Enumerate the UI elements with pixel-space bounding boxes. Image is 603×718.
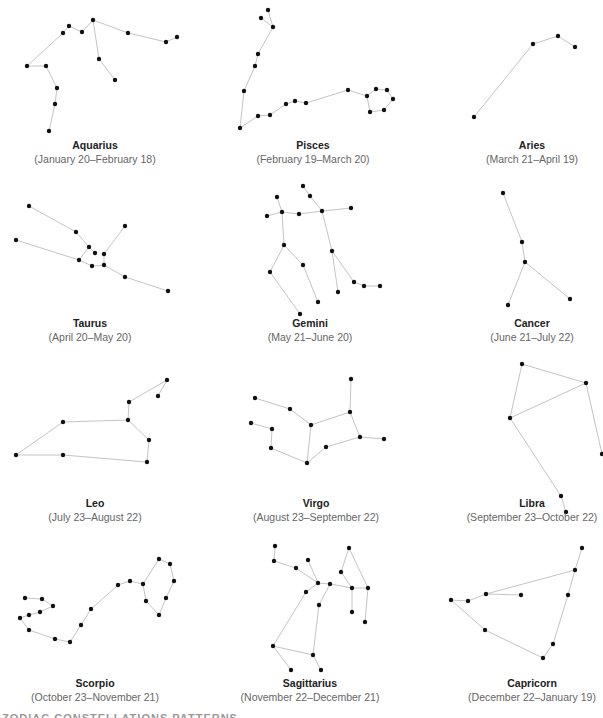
constellation-line	[474, 44, 533, 117]
constellation-line	[251, 423, 272, 429]
star-dot	[55, 86, 59, 90]
constellation-dates: (August 23–September 22)	[253, 511, 379, 523]
constellation-line	[303, 265, 318, 302]
constellation-line	[240, 116, 258, 128]
constellation-line	[522, 242, 525, 262]
constellation-line	[267, 212, 282, 216]
constellation-line	[486, 594, 521, 595]
constellation-line	[349, 548, 368, 588]
constellation-dates: (June 21–July 22)	[490, 331, 573, 343]
constellation-line	[258, 27, 273, 54]
star-dot	[301, 184, 305, 188]
star-dot	[172, 579, 176, 583]
star-dot	[253, 396, 257, 400]
constellation-line	[330, 584, 352, 588]
star-dot	[317, 603, 321, 607]
constellation-line	[299, 211, 322, 214]
star-dot	[362, 284, 366, 288]
constellation-line	[543, 644, 553, 658]
constellation-dates: (March 21–April 19)	[486, 153, 578, 165]
constellation-line	[586, 383, 602, 454]
constellation-pisces: Pisces(February 19–March 20)	[238, 8, 395, 165]
star-dot	[301, 263, 305, 267]
star-dot	[270, 427, 274, 431]
constellation-line	[274, 546, 275, 561]
star-dot	[466, 599, 470, 603]
star-dot	[316, 581, 320, 585]
constellation-line	[76, 232, 89, 247]
star-dot	[501, 191, 505, 195]
constellation-line	[313, 605, 319, 655]
star-dot	[349, 377, 353, 381]
constellation-dates: (January 20–February 18)	[34, 153, 155, 165]
star-dot	[269, 446, 273, 450]
constellation-gemini: Gemini(May 21–June 20)	[265, 184, 382, 343]
star-dot	[336, 290, 340, 294]
constellation-line	[322, 211, 332, 251]
constellation-line	[20, 618, 29, 630]
star-dot	[116, 583, 120, 587]
star-dot	[97, 57, 101, 61]
constellation-line	[274, 561, 296, 568]
star-dot	[330, 249, 334, 253]
star-dot	[25, 64, 29, 68]
star-dot	[320, 209, 324, 213]
constellation-line	[49, 104, 55, 131]
constellation-line	[284, 245, 303, 265]
star-dot	[27, 628, 31, 632]
star-dot	[90, 264, 94, 268]
constellation-aries: Aries(March 21–April 19)	[472, 34, 578, 165]
constellation-line	[29, 206, 76, 232]
constellation-line	[277, 197, 282, 212]
star-dot	[282, 243, 286, 247]
constellation-line	[271, 429, 272, 448]
constellation-name: Virgo	[303, 497, 330, 509]
constellation-dates: (September 23–October 22)	[467, 511, 598, 523]
star-dot	[271, 25, 275, 29]
star-dot	[102, 252, 106, 256]
star-dot	[280, 210, 284, 214]
constellation-line	[307, 447, 326, 463]
constellation-line	[332, 251, 338, 292]
constellation-line	[81, 609, 91, 625]
constellation-line	[82, 20, 93, 32]
constellation-line	[159, 598, 166, 615]
constellation-line	[310, 196, 322, 211]
star-dot	[249, 421, 253, 425]
star-dot	[508, 416, 512, 420]
constellation-line	[270, 104, 286, 115]
star-dot	[483, 628, 487, 632]
constellation-scorpio: Scorpio(October 23–November 21)	[18, 557, 176, 703]
star-dot	[484, 592, 488, 596]
star-dot	[368, 110, 372, 114]
star-dot	[293, 99, 297, 103]
constellation-line	[70, 625, 81, 642]
constellation-dates: (November 22–December 21)	[241, 691, 380, 703]
constellation-line	[348, 90, 367, 96]
star-dot	[113, 78, 117, 82]
star-dot	[123, 224, 127, 228]
constellation-line	[508, 262, 525, 305]
star-dot	[141, 582, 145, 586]
constellation-line	[503, 193, 522, 242]
constellation-line	[27, 33, 63, 66]
star-dot	[165, 378, 169, 382]
star-dot	[53, 637, 57, 641]
star-dot	[61, 420, 65, 424]
star-dot	[304, 590, 308, 594]
constellation-line	[128, 420, 149, 440]
constellation-line	[268, 10, 273, 27]
star-dot	[77, 258, 81, 262]
constellation-line	[313, 655, 321, 670]
constellation-line	[147, 440, 149, 462]
star-dot	[584, 381, 588, 385]
constellation-line	[16, 422, 63, 455]
star-dot	[566, 593, 570, 597]
star-dot	[297, 212, 301, 216]
star-dot	[61, 453, 65, 457]
star-dot	[391, 97, 395, 101]
star-dot	[273, 544, 277, 548]
star-dot	[348, 410, 352, 414]
star-dot	[157, 557, 161, 561]
star-dot	[40, 597, 44, 601]
